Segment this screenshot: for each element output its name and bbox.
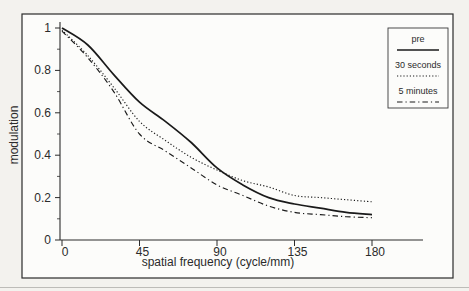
chart-canvas: 00.20.40.60.8104590135180 modulation spa… [0,0,469,291]
y-tick-label: 0.6 [34,106,51,120]
x-tick-label: 0 [62,245,69,259]
figure-page: 00.20.40.60.8104590135180 modulation spa… [0,0,469,291]
y-axis-title: modulation [7,106,21,165]
y-tick-label: 0.4 [34,148,51,162]
legend-label-5-minutes: 5 minutes [398,86,438,96]
legend: pre 30 seconds 5 minutes [388,28,448,108]
y-tick-label: 1 [44,21,51,35]
y-tick-label: 0.2 [34,191,51,205]
scan-artifact-line [0,287,469,288]
y-tick-label: 0.8 [34,63,51,77]
x-axis-title: spatial frequency (cycle/mm) [142,255,295,269]
x-tick-label: 180 [365,245,385,259]
legend-label-30-seconds: 30 seconds [395,60,442,70]
legend-label-pre: pre [411,34,424,44]
y-tick-label: 0 [44,233,51,247]
